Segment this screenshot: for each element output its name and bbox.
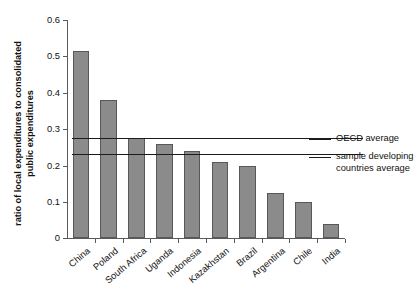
x-tick-6 bbox=[234, 239, 235, 243]
y-tick-label-0.3: 0.3 bbox=[20, 123, 60, 134]
y-tick-label-0.5: 0.5 bbox=[20, 50, 60, 61]
x-tick-7 bbox=[262, 239, 263, 243]
legend-line-oecd-average bbox=[309, 139, 331, 140]
bar-chart: ratio of local expenditures to consolida… bbox=[0, 0, 416, 305]
bar-argentina bbox=[267, 193, 284, 238]
bar-uganda bbox=[156, 144, 173, 238]
y-tick-0.3 bbox=[63, 129, 67, 130]
x-tick-3 bbox=[150, 239, 151, 243]
y-tick-label-0: 0 bbox=[20, 232, 60, 243]
y-axis-line bbox=[67, 20, 68, 239]
y-tick-label-0.6: 0.6 bbox=[20, 14, 60, 25]
legend-line-sample-developing-countries-average bbox=[309, 157, 331, 158]
bar-poland bbox=[100, 100, 117, 238]
y-tick-label-0.4: 0.4 bbox=[20, 87, 60, 98]
y-tick-0.4 bbox=[63, 93, 67, 94]
reference-line-sample-developing-countries-average bbox=[72, 154, 363, 155]
y-tick-label-0.1: 0.1 bbox=[20, 196, 60, 207]
x-tick-4 bbox=[178, 239, 179, 243]
bar-chile bbox=[295, 202, 312, 238]
legend-label-sample-developing-countries-average-line-1: sample developing bbox=[336, 151, 414, 162]
bar-kazakhstan bbox=[212, 162, 229, 238]
x-tick-8 bbox=[289, 239, 290, 243]
bar-china bbox=[73, 51, 90, 238]
x-tick-2 bbox=[123, 239, 124, 243]
bar-brazil bbox=[239, 166, 256, 238]
y-tick-0.1 bbox=[63, 202, 67, 203]
bar-india bbox=[323, 224, 340, 238]
y-tick-0 bbox=[63, 238, 67, 239]
y-tick-0.2 bbox=[63, 166, 67, 167]
x-tick-5 bbox=[206, 239, 207, 243]
x-tick-1 bbox=[95, 239, 96, 243]
x-tick-10 bbox=[345, 239, 346, 243]
bar-indonesia bbox=[184, 151, 201, 238]
legend-label-sample-developing-countries-average-line-2: countries average bbox=[336, 163, 410, 174]
y-tick-0.6 bbox=[63, 20, 67, 21]
y-tick-0.5 bbox=[63, 56, 67, 57]
x-tick-9 bbox=[317, 239, 318, 243]
legend-label-oecd-average: OECD average bbox=[336, 133, 399, 144]
y-tick-label-0.2: 0.2 bbox=[20, 160, 60, 171]
bar-south-africa bbox=[128, 138, 145, 238]
